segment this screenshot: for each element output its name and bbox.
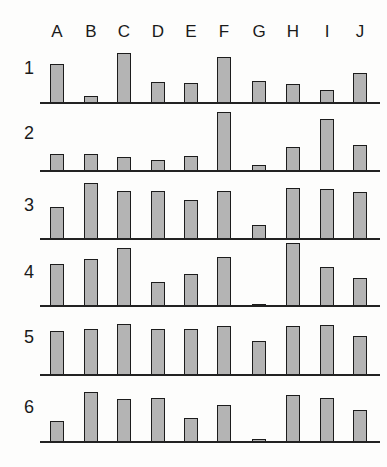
bar-3-e — [184, 200, 198, 238]
baseline-row-6 — [40, 441, 380, 443]
bar-4-d — [151, 282, 165, 305]
row-label-4: 4 — [24, 262, 38, 282]
bar-4-j — [353, 278, 367, 305]
bar-2-b — [84, 154, 98, 170]
bar-1-e — [184, 83, 198, 102]
bar-6-j — [353, 410, 367, 441]
bar-3-h — [286, 188, 300, 238]
column-label-f: F — [214, 22, 234, 42]
bar-4-a — [50, 264, 64, 305]
bar-2-d — [151, 160, 165, 170]
column-label-e: E — [181, 22, 201, 42]
bar-4-i — [320, 267, 334, 305]
bar-6-b — [84, 392, 98, 441]
column-label-g: G — [249, 22, 269, 42]
column-label-a: A — [47, 22, 67, 42]
bar-4-e — [184, 274, 198, 305]
bar-5-b — [84, 329, 98, 374]
bar-1-h — [286, 84, 300, 102]
bar-1-c — [117, 53, 131, 102]
row-label-6: 6 — [24, 397, 38, 417]
bar-4-h — [286, 243, 300, 305]
baseline-row-2 — [40, 170, 380, 172]
column-label-c: C — [114, 22, 134, 42]
bar-1-g — [252, 81, 266, 102]
bar-2-c — [117, 157, 131, 170]
baseline-row-5 — [40, 374, 380, 376]
bar-1-b — [84, 96, 98, 102]
bar-5-i — [320, 325, 334, 374]
bar-1-i — [320, 90, 334, 102]
column-label-h: H — [283, 22, 303, 42]
bar-5-h — [286, 326, 300, 374]
bar-1-f — [217, 57, 231, 102]
bar-4-b — [84, 259, 98, 305]
bar-1-d — [151, 82, 165, 102]
bar-3-g — [252, 225, 266, 238]
bar-2-e — [184, 156, 198, 170]
bar-5-d — [151, 329, 165, 374]
bar-6-f — [217, 405, 231, 441]
bar-1-a — [50, 64, 64, 102]
bar-3-d — [151, 191, 165, 238]
bar-6-g — [252, 439, 266, 441]
baseline-row-4 — [40, 305, 380, 307]
bar-4-f — [217, 257, 231, 305]
bar-6-i — [320, 398, 334, 441]
bar-5-c — [117, 324, 131, 374]
bar-6-h — [286, 395, 300, 441]
row-label-3: 3 — [24, 195, 38, 215]
bar-6-e — [184, 418, 198, 441]
bar-5-g — [252, 341, 266, 374]
bar-2-h — [286, 147, 300, 170]
bar-6-c — [117, 399, 131, 441]
bar-3-i — [320, 189, 334, 238]
bar-2-f — [217, 112, 231, 170]
column-label-d: D — [148, 22, 168, 42]
bar-chart-grid: A B C D E F G H I J 1 2 3 4 5 6 — [0, 0, 387, 467]
bar-2-j — [353, 145, 367, 170]
bar-3-j — [353, 192, 367, 238]
bar-5-j — [353, 336, 367, 374]
column-label-i: I — [317, 22, 337, 42]
bar-5-f — [217, 326, 231, 374]
bar-5-e — [184, 329, 198, 374]
baseline-row-3 — [40, 238, 380, 240]
row-label-1: 1 — [24, 58, 38, 78]
bar-3-f — [217, 191, 231, 238]
bar-6-a — [50, 421, 64, 441]
bar-4-c — [117, 248, 131, 305]
baseline-row-1 — [40, 102, 380, 104]
bar-2-a — [50, 154, 64, 170]
bar-1-j — [353, 73, 367, 102]
column-label-j: J — [350, 22, 370, 42]
row-label-5: 5 — [24, 327, 38, 347]
bar-3-b — [84, 183, 98, 238]
bar-3-c — [117, 191, 131, 238]
bar-6-d — [151, 398, 165, 441]
bar-2-i — [320, 119, 334, 170]
bar-2-g — [252, 165, 266, 170]
bar-5-a — [50, 331, 64, 374]
bar-3-a — [50, 207, 64, 238]
bar-4-g — [252, 304, 266, 306]
row-label-2: 2 — [24, 123, 38, 143]
column-label-b: B — [81, 22, 101, 42]
